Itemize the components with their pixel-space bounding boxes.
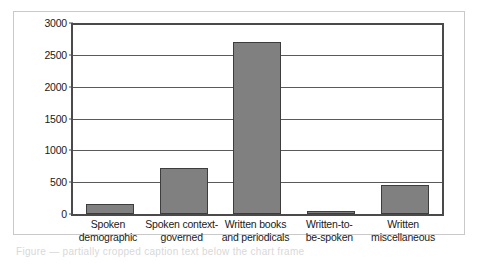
- x-axis-category-label: Writtenmiscellaneous: [366, 218, 440, 244]
- bar[interactable]: [381, 185, 429, 214]
- x-axis-category-label: Spokendemographic: [71, 218, 145, 244]
- x-axis-label-line: Spoken context-: [145, 218, 219, 231]
- x-axis-label-line: governed: [145, 231, 219, 244]
- x-axis-label-line: miscellaneous: [366, 231, 440, 244]
- bar[interactable]: [307, 211, 355, 214]
- y-axis-tick-label: 0: [61, 208, 67, 220]
- x-axis-category-label: Written booksand periodicals: [219, 218, 293, 244]
- y-axis-tick-label: 1500: [44, 113, 67, 125]
- bar-slot: [368, 23, 442, 214]
- x-axis-category-label: Spoken context-governed: [145, 218, 219, 244]
- x-axis-label-line: Written books: [219, 218, 293, 231]
- bar-slot: [147, 23, 221, 214]
- x-axis-label-line: demographic: [71, 231, 145, 244]
- bar-slot: [221, 23, 295, 214]
- x-axis-label-line: Spoken: [71, 218, 145, 231]
- y-axis-tick-label: 2000: [44, 81, 67, 93]
- x-axis-label-line: be-spoken: [292, 231, 366, 244]
- y-axis-tick-label: 500: [50, 176, 67, 188]
- x-axis-label-line: Written: [366, 218, 440, 231]
- bar-slot: [294, 23, 368, 214]
- y-axis-tick-label: 1000: [44, 144, 67, 156]
- bar[interactable]: [86, 204, 134, 214]
- chart-plot-area: 050010001500200025003000: [71, 23, 444, 216]
- caption-artifact: Figure — partially cropped caption text …: [16, 246, 456, 257]
- bar[interactable]: [160, 168, 208, 214]
- y-axis-tick-label: 2500: [44, 49, 67, 61]
- bars-group: [73, 23, 442, 214]
- figure-frame: 050010001500200025003000 Spokendemograph…: [13, 11, 465, 235]
- x-axis-category-label: Written-to-be-spoken: [292, 218, 366, 244]
- x-axis-label-line: Written-to-: [292, 218, 366, 231]
- bar[interactable]: [233, 42, 281, 214]
- bar-slot: [73, 23, 147, 214]
- y-axis-tick-label: 3000: [44, 17, 67, 29]
- x-axis-label-line: and periodicals: [219, 231, 293, 244]
